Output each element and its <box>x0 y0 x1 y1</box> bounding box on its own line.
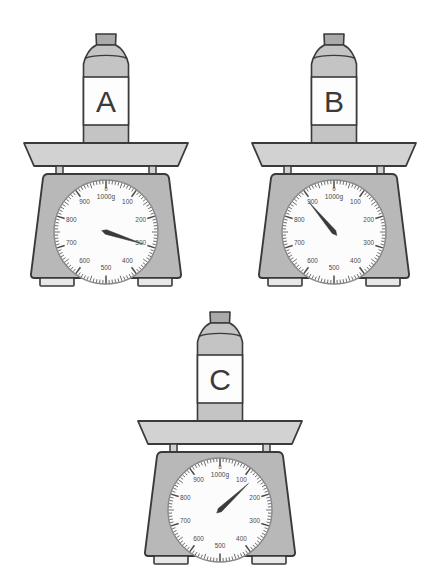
bottle-cap <box>96 34 116 45</box>
scale-foot-left <box>40 278 74 286</box>
tray-post-right <box>149 166 156 174</box>
kitchen-scale-a: A10020030040050060070080090001000g <box>18 12 194 302</box>
bottle: A <box>84 34 129 143</box>
dial-tick-label-500: 500 <box>329 264 340 271</box>
scale-foot-left <box>268 278 302 286</box>
dial-tick-label-700: 700 <box>294 239 305 246</box>
tray-post-left <box>170 444 177 452</box>
bottle-cap <box>210 312 230 323</box>
dial-zero-label: 0 <box>218 464 221 470</box>
kitchen-scale-c: C10020030040050060070080090001000g <box>132 290 308 580</box>
dial-tick-label-900: 900 <box>307 198 318 205</box>
tray-post-right <box>263 444 270 452</box>
scale-drawing: C10020030040050060070080090001000g <box>132 290 308 580</box>
dial-tick-label-600: 600 <box>307 257 318 264</box>
scale-foot-right <box>252 556 286 564</box>
dial-tick-label-100: 100 <box>350 198 361 205</box>
dial-tick-label-100: 100 <box>236 476 247 483</box>
dial-tick-label-200: 200 <box>135 216 146 223</box>
dial-tick-label-800: 800 <box>180 494 191 501</box>
dial-zero-label: 0 <box>104 186 107 192</box>
bottle: C <box>198 312 243 421</box>
dial-unit-label: 1000g <box>325 193 344 201</box>
tray-post-left <box>56 166 63 174</box>
scale-foot-right <box>366 278 400 286</box>
scale-tray <box>138 421 302 452</box>
dial-unit-label: 1000g <box>97 193 116 201</box>
dial-tick-label-800: 800 <box>294 216 305 223</box>
dial-tick-label-500: 500 <box>101 264 112 271</box>
dial-tick-label-200: 200 <box>363 216 374 223</box>
bottle-letter: A <box>96 85 116 118</box>
dial-tick-label-200: 200 <box>249 494 260 501</box>
dial-tick-label-300: 300 <box>363 239 374 246</box>
scale-tray <box>24 143 188 174</box>
scale-drawing: B10020030040050060070080090001000g <box>246 12 422 302</box>
dial-tick-label-500: 500 <box>215 542 226 549</box>
bottle: B <box>312 34 357 143</box>
scale-foot-left <box>154 556 188 564</box>
dial-tick-label-900: 900 <box>193 476 204 483</box>
dial-unit-label: 1000g <box>211 471 230 479</box>
tray-post-right <box>377 166 384 174</box>
bottle-letter: B <box>324 85 344 118</box>
dial-tick-label-800: 800 <box>66 216 77 223</box>
dial-tick-label-400: 400 <box>236 535 247 542</box>
tray-plate <box>24 143 188 166</box>
tray-plate <box>252 143 416 166</box>
dial-tick-label-300: 300 <box>249 517 260 524</box>
bottle-cap <box>324 34 344 45</box>
dial-tick-label-400: 400 <box>122 257 133 264</box>
scale-dial: 10020030040050060070080090001000g <box>54 180 158 284</box>
scale-dial: 10020030040050060070080090001000g <box>168 458 272 562</box>
scale-tray <box>252 143 416 174</box>
tray-plate <box>138 421 302 444</box>
scale-drawing: A10020030040050060070080090001000g <box>18 12 194 302</box>
kitchen-scale-b: B10020030040050060070080090001000g <box>246 12 422 302</box>
scales-figure: A10020030040050060070080090001000gB10020… <box>0 0 446 581</box>
tray-post-left <box>284 166 291 174</box>
dial-tick-label-600: 600 <box>79 257 90 264</box>
scale-dial: 10020030040050060070080090001000g <box>282 180 386 284</box>
scale-foot-right <box>138 278 172 286</box>
dial-tick-label-600: 600 <box>193 535 204 542</box>
dial-tick-label-400: 400 <box>350 257 361 264</box>
bottle-letter: C <box>209 363 231 396</box>
dial-tick-label-900: 900 <box>79 198 90 205</box>
dial-tick-label-700: 700 <box>180 517 191 524</box>
dial-tick-label-700: 700 <box>66 239 77 246</box>
dial-tick-label-100: 100 <box>122 198 133 205</box>
dial-zero-label: 0 <box>332 186 335 192</box>
